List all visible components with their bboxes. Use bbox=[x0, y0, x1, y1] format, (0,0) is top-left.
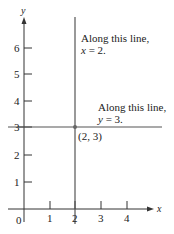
y-tick-label: 2 bbox=[14, 149, 20, 161]
y-tick-label: 6 bbox=[14, 42, 20, 54]
coordinate-diagram: y x 0 1 2 3 4 5 6 1 2 3 4 (2, 3) Along t… bbox=[0, 0, 174, 234]
annotation-equation: y = 3. bbox=[98, 113, 166, 125]
y-ticks bbox=[18, 48, 32, 182]
vertical-line-annotation: Along this line, x = 2. bbox=[81, 32, 149, 56]
x-ticks bbox=[50, 201, 127, 209]
intersection-point-marker bbox=[73, 125, 77, 129]
x-axis-label: x bbox=[156, 203, 162, 214]
intersection-point-label: (2, 3) bbox=[78, 130, 102, 143]
horizontal-line-annotation: Along this line, y = 3. bbox=[98, 101, 166, 125]
annotation-equation: x = 2. bbox=[81, 44, 149, 56]
annotation-text: Along this line, bbox=[98, 101, 166, 113]
x-tick-label: 1 bbox=[47, 212, 53, 224]
annotation-text: Along this line, bbox=[81, 32, 149, 44]
x-tick-label: 3 bbox=[98, 212, 104, 224]
y-axis-label: y bbox=[20, 5, 26, 16]
y-tick-label: 3 bbox=[14, 121, 20, 133]
y-tick-label: 1 bbox=[14, 176, 20, 188]
y-tick-label: 4 bbox=[14, 95, 20, 107]
x-axis-arrow-icon bbox=[147, 207, 154, 212]
y-axis-arrow-icon bbox=[22, 17, 27, 24]
y-tick-label: 5 bbox=[14, 68, 20, 80]
x-tick-label: 2 bbox=[72, 212, 78, 224]
x-tick-label: 4 bbox=[124, 212, 130, 224]
origin-label: 0 bbox=[16, 214, 22, 226]
